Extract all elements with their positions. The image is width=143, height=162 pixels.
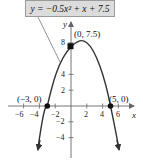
left-intercept-label: (−3, 0)	[17, 94, 42, 104]
x-tick-label: 4	[100, 110, 104, 119]
y-tick-label: 8	[61, 38, 65, 47]
y-tick-label: 4	[61, 70, 65, 79]
y-tick-label: 2	[61, 86, 65, 95]
y-tick-label: −2	[56, 117, 65, 126]
x-tick-label: −4	[30, 110, 39, 119]
y-axis-label: y	[63, 20, 67, 29]
x-tick-label: −6	[15, 110, 24, 119]
equation-callout-line	[38, 17, 60, 62]
equation-label: y = −0.5x² + x + 7.5	[25, 0, 115, 17]
vertex-point	[68, 43, 74, 49]
right-intercept-point	[108, 103, 114, 109]
x-tick-label: 6	[116, 110, 120, 119]
right-arm-arrow	[117, 140, 119, 150]
vertex-label: (0, 7.5)	[74, 29, 100, 39]
left-intercept-point	[45, 103, 51, 109]
parabola-curve	[38, 41, 119, 150]
y-tick-label: −4	[56, 133, 65, 142]
right-intercept-label: (5, 0)	[109, 94, 129, 104]
x-tick-label: 2	[84, 110, 88, 119]
x-axis-label: x	[132, 111, 136, 120]
parabola-plot	[0, 0, 143, 162]
